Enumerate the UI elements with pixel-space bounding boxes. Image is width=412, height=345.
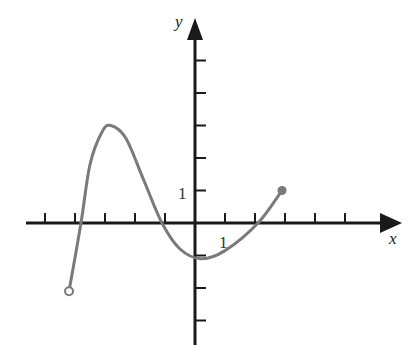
function-curve bbox=[69, 125, 282, 291]
y-tick-label-1: 1 bbox=[178, 184, 187, 203]
y-axis-arrow-icon bbox=[187, 18, 203, 40]
open-endpoint-circle bbox=[65, 287, 73, 295]
function-graph: x y 1 1 bbox=[0, 0, 412, 345]
y-axis-label: y bbox=[173, 12, 183, 31]
closed-endpoint-dot bbox=[278, 186, 287, 195]
x-axis-label: x bbox=[388, 229, 397, 248]
